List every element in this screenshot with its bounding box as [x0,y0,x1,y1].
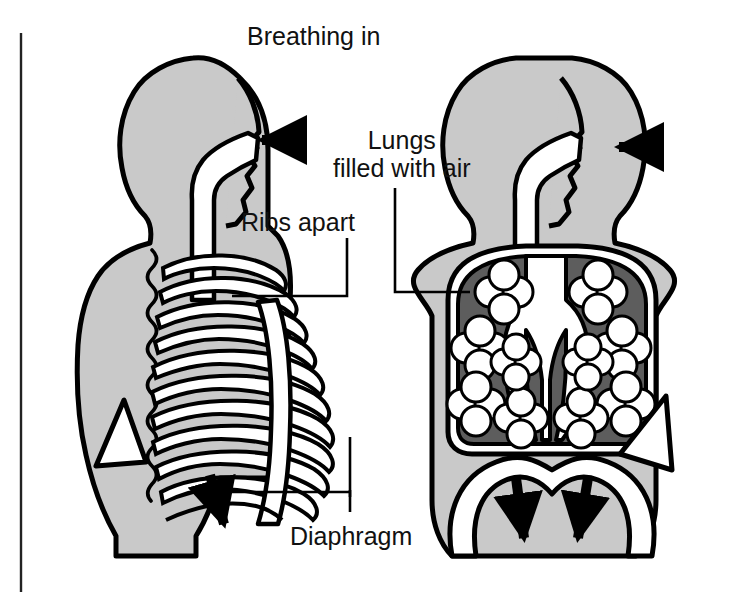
diaphragm-label: Diaphragm [290,522,412,550]
diagram-title: Breathing in [247,22,380,50]
breathing-in-diagram [0,0,742,592]
ribs-apart-label: Ribs apart [241,208,355,236]
lungs-filled-label: Lungs filled with air [333,126,471,182]
